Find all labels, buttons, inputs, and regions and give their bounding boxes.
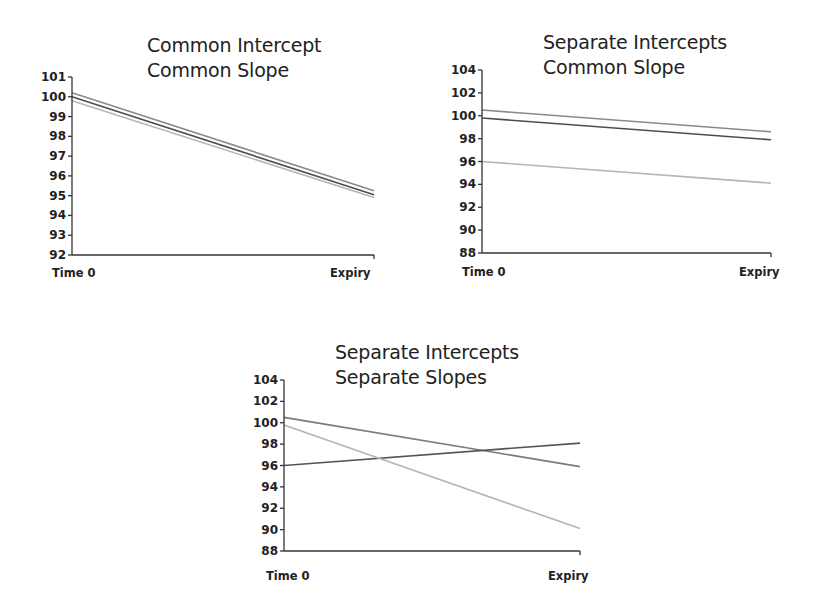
y-tick-label: 96 bbox=[238, 459, 278, 473]
y-tick-label: 88 bbox=[238, 544, 278, 558]
y-tick-label: 102 bbox=[238, 394, 278, 408]
plot-area bbox=[0, 0, 830, 603]
y-tick-label: 104 bbox=[238, 373, 278, 387]
series-line bbox=[284, 443, 580, 465]
series-line bbox=[284, 417, 580, 466]
y-tick-label: 100 bbox=[238, 416, 278, 430]
chart-separate-intercepts-separate-slopes: Separate Intercepts Separate Slopes Time… bbox=[0, 0, 830, 603]
y-tick-label: 98 bbox=[238, 437, 278, 451]
series-line bbox=[284, 425, 580, 529]
y-tick-label: 92 bbox=[238, 501, 278, 515]
y-tick-label: 90 bbox=[238, 523, 278, 537]
y-tick-label: 94 bbox=[238, 480, 278, 494]
